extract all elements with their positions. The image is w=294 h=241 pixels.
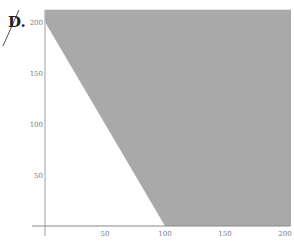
x-tick-labels: 50100150200 bbox=[101, 230, 292, 238]
y-tick-label: 50 bbox=[34, 172, 43, 180]
figure-label: D. bbox=[8, 13, 26, 31]
x-tick-label: 200 bbox=[278, 230, 291, 238]
x-tick-label: 50 bbox=[101, 230, 110, 238]
shaded-region bbox=[45, 10, 291, 226]
y-tick-label: 100 bbox=[30, 121, 43, 129]
x-tick-label: 100 bbox=[158, 230, 171, 238]
y-tick-label: 150 bbox=[30, 70, 43, 78]
y-tick-label: 200 bbox=[30, 19, 43, 27]
y-tick-labels: 50100150200 bbox=[30, 19, 43, 180]
chart: 50100150200 50100150200 D. bbox=[0, 0, 294, 241]
x-tick-label: 150 bbox=[218, 230, 231, 238]
